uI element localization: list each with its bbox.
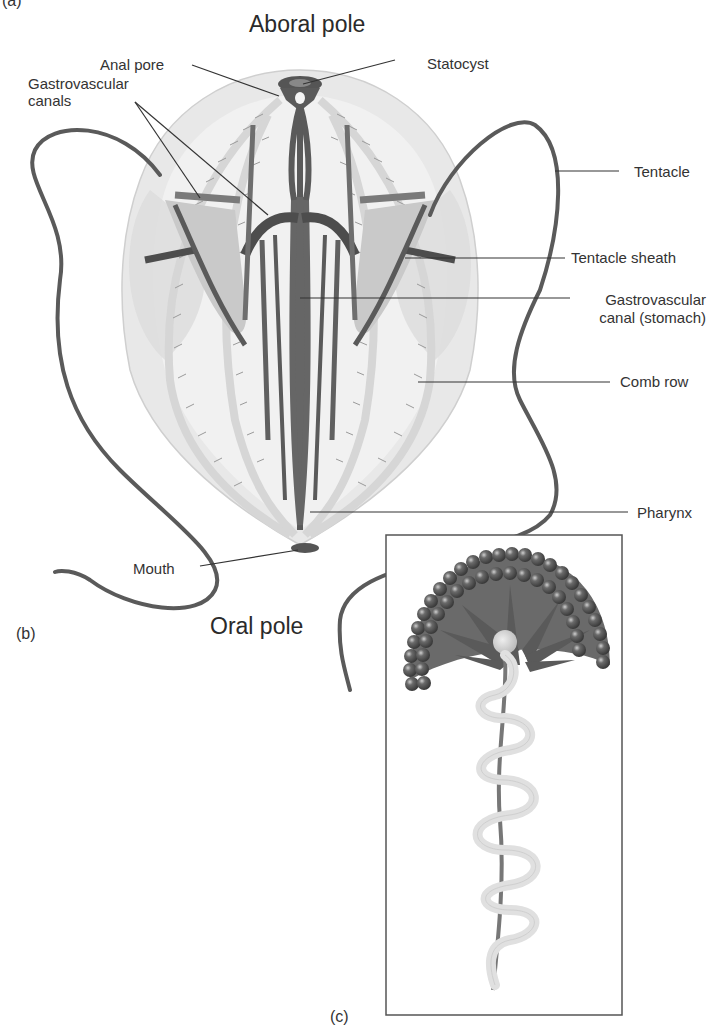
pharynx-label: Pharynx xyxy=(637,504,692,521)
tentacle-label: Tentacle xyxy=(634,163,690,180)
panel-c-label: (c) xyxy=(330,1008,349,1025)
aboral-pole-label: Aboral pole xyxy=(249,16,365,33)
mouth-label: Mouth xyxy=(133,560,175,577)
gastrovascular-canals-label-line1: Gastrovascular xyxy=(28,75,129,92)
mouth xyxy=(291,543,319,553)
stomach-label-line2: canal (stomach) xyxy=(578,309,706,326)
oral-pole-label: Oral pole xyxy=(210,618,303,635)
ctenophore-diagram xyxy=(0,0,720,1028)
anal-pore-label: Anal pore xyxy=(100,56,164,73)
stomach-label-line1: Gastrovascular xyxy=(578,291,706,308)
gastrovascular-canals-label-line2: canals xyxy=(28,92,71,109)
panel-a-label: (a) xyxy=(2,0,22,9)
statocyst-label: Statocyst xyxy=(427,55,489,72)
panel-b-label: (b) xyxy=(16,625,36,642)
comb-row-label: Comb row xyxy=(620,373,688,390)
tentacle-sheath-label: Tentacle sheath xyxy=(571,249,676,266)
